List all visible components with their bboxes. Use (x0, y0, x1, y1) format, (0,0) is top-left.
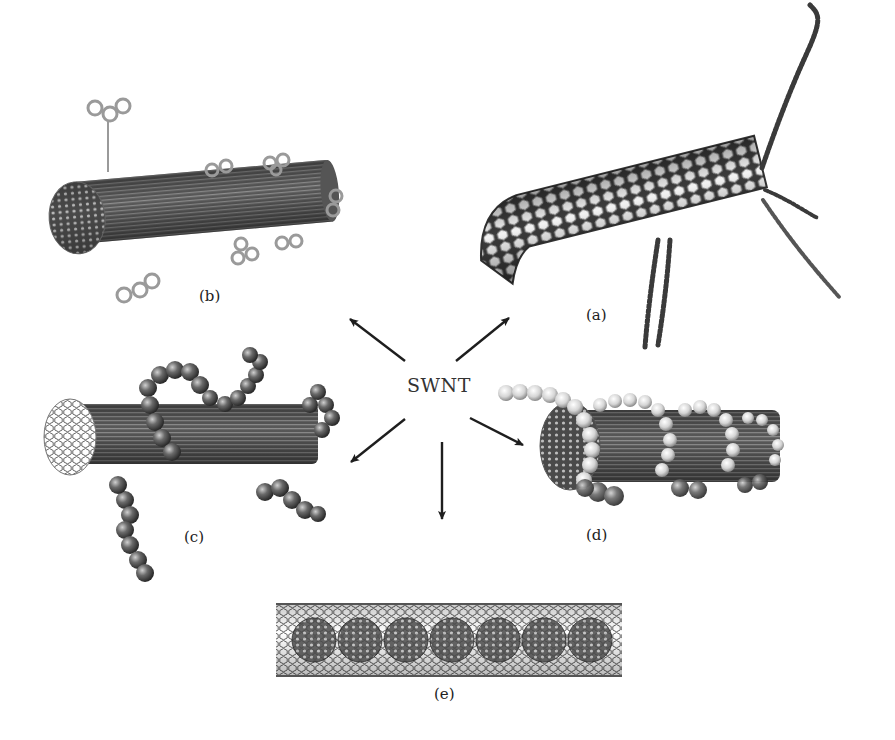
center-label-swnt: SWNT (407, 376, 471, 395)
panel-e-nanotube-peapod (276, 604, 622, 676)
panel-label-e: (e) (434, 687, 455, 702)
figure-graphics (0, 0, 895, 740)
arrow-to-a (456, 318, 509, 361)
arrows-group (350, 318, 523, 519)
panel-label-b: (b) (199, 289, 220, 304)
panel-d-nanotube-helical-wrap (498, 384, 784, 506)
panel-b-nanotube-aromatic (46, 99, 342, 302)
panel-c-nanotube-adsorbed-chains (44, 347, 340, 582)
panel-label-a: (a) (586, 308, 607, 323)
panel-label-c: (c) (184, 530, 204, 545)
figure-canvas: SWNT (a) (b) (c) (d) (e) (0, 0, 895, 740)
arrow-to-b (350, 319, 405, 361)
panel-a-nanotube-polymer-chains (468, 5, 840, 347)
panel-label-d: (d) (586, 528, 607, 543)
arrow-to-c (351, 419, 405, 462)
arrow-to-d (470, 418, 523, 445)
